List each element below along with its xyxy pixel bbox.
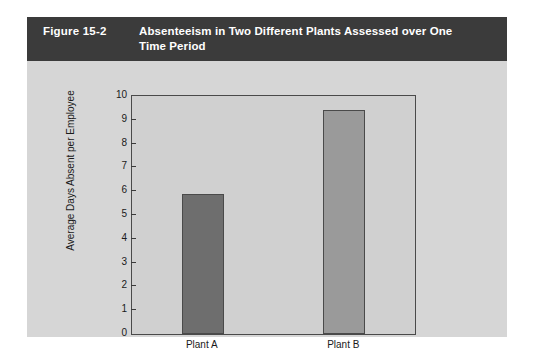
y-axis-tick-mark: [131, 166, 136, 167]
y-axis-tick-label: 4: [105, 233, 127, 243]
y-axis-tick-labels: 012345678910: [105, 95, 127, 333]
figure-card: Figure 15-2 Absenteeism in Two Different…: [27, 17, 507, 337]
y-axis-tick-mark: [131, 262, 136, 263]
chart-region: Average Days Absent per Employee 0123456…: [27, 61, 507, 337]
y-axis-tick-mark: [131, 119, 136, 120]
y-axis-tick-label: 1: [105, 304, 127, 314]
y-axis-tick-label: 9: [105, 114, 127, 124]
y-axis-tick-label: 0: [105, 328, 127, 338]
y-axis-tick-label: 2: [105, 280, 127, 290]
plot-area: [131, 95, 416, 335]
figure-screenshot: Figure 15-2 Absenteeism in Two Different…: [0, 0, 533, 360]
y-axis-tick-label: 6: [105, 185, 127, 195]
y-axis-tick-mark: [131, 190, 136, 191]
figure-number: Figure 15-2: [43, 24, 139, 38]
y-axis-tick-mark: [131, 309, 136, 310]
y-axis-tick-mark: [131, 143, 136, 144]
bar-plant-b: [323, 110, 365, 334]
y-axis-tick-mark: [131, 238, 136, 239]
bar-plant-a: [182, 194, 224, 334]
y-axis-tick-label: 10: [105, 90, 127, 100]
y-axis-tick-label: 5: [105, 209, 127, 219]
y-axis-tick-label: 7: [105, 161, 127, 171]
x-axis-tick-label: Plant B: [327, 339, 359, 350]
figure-title: Absenteeism in Two Different Plants Asse…: [139, 24, 457, 53]
y-axis-tick-label: 3: [105, 257, 127, 267]
x-axis-tick-labels: Plant APlant B: [131, 339, 416, 355]
y-axis-tick-mark: [131, 214, 136, 215]
x-axis-tick-label: Plant A: [186, 339, 218, 350]
y-axis-tick-mark: [131, 285, 136, 286]
figure-header-bar: Figure 15-2 Absenteeism in Two Different…: [27, 17, 507, 61]
y-axis-tick-label: 8: [105, 138, 127, 148]
y-axis-title: Average Days Absent per Employee: [65, 63, 76, 278]
